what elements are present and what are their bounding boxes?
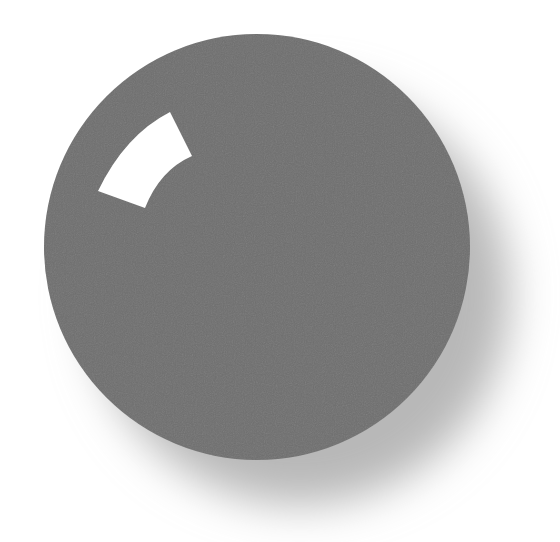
sphere-graphic xyxy=(0,0,560,542)
sphere-illustration: Gray sphere with white curved highlight … xyxy=(0,0,560,542)
sphere-texture xyxy=(44,34,470,460)
